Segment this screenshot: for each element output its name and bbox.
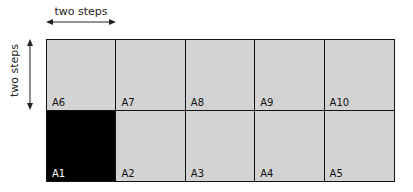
grid-cell-a9: A9 [255, 40, 324, 111]
cell-label: A7 [121, 97, 134, 108]
grid-cell-a6: A6 [47, 40, 116, 111]
grid-cell-a5: A5 [325, 111, 394, 182]
grid-cell-a1: A1 [47, 111, 116, 182]
cell-label: A1 [52, 168, 65, 179]
cell-label: A9 [260, 97, 273, 108]
grid-cell-a4: A4 [255, 111, 324, 182]
horizontal-step-label: two steps [46, 5, 116, 18]
cell-label: A3 [191, 168, 204, 179]
vertical-step-label: two steps [8, 39, 21, 103]
cell-label: A5 [330, 168, 343, 179]
cell-label: A8 [191, 97, 204, 108]
grid-cell-a3: A3 [186, 111, 255, 182]
cell-label: A2 [121, 168, 134, 179]
vertical-double-arrow-icon [26, 39, 34, 110]
cell-label: A4 [260, 168, 273, 179]
cell-label: A10 [330, 97, 350, 108]
grid-cell-a2: A2 [116, 111, 185, 182]
cell-grid: A6 A7 A8 A9 A10 A1 A2 A3 A4 A5 [46, 39, 395, 182]
cell-label: A6 [52, 97, 65, 108]
grid-cell-a10: A10 [325, 40, 394, 111]
grid-cell-a8: A8 [186, 40, 255, 111]
horizontal-double-arrow-icon [46, 18, 116, 26]
grid-cell-a7: A7 [116, 40, 185, 111]
